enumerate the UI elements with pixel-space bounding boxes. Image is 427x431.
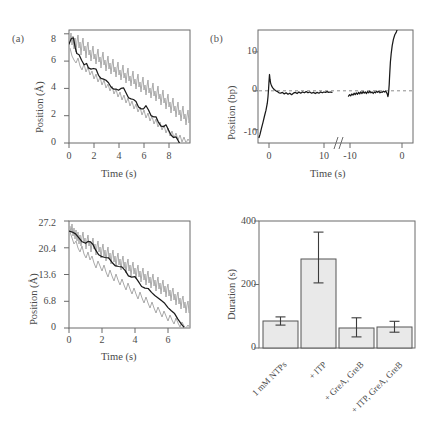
chart-b-bottom-plot xyxy=(254,221,415,348)
figure-panel-grid: (a) Position (Å) Time (s) 0 2 4 6 8 0 2 … xyxy=(0,0,427,431)
chart-b-bottom-canvas xyxy=(0,0,427,431)
chart-b-bottom-ticks xyxy=(254,221,259,348)
